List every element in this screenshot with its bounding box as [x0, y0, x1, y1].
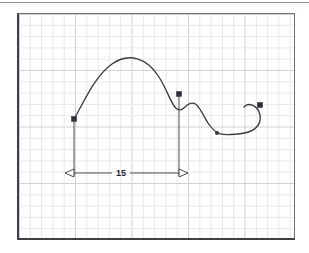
dimension-value-label[interactable]: 15	[116, 168, 126, 178]
node-end[interactable]	[258, 103, 263, 108]
spline-curve[interactable]	[74, 58, 260, 135]
dimension-annotation-group[interactable]: 15	[65, 94, 188, 178]
dimension-arrowhead-right	[179, 169, 188, 177]
geometry-layer: 15	[19, 14, 294, 238]
geometry-svg: 15	[19, 14, 295, 238]
node-valley[interactable]	[215, 131, 219, 135]
top-rule-divider	[0, 2, 309, 3]
spline-node-group	[72, 92, 263, 136]
drawing-frame: 15	[17, 13, 295, 240]
cad-drawing-view: 15	[0, 0, 309, 253]
dimension-arrowhead-left	[65, 169, 74, 177]
